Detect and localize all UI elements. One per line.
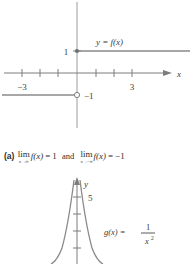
x-tick-label-3: 3 — [130, 82, 135, 92]
limit-2-subscript: x→−∞ — [81, 159, 93, 164]
function-label-f: y = f(x) — [95, 37, 123, 47]
limit-1-equals: = — [45, 151, 50, 161]
curve-branch-left — [51, 180, 74, 264]
limit-2-operator: lim — [81, 150, 93, 159]
answer-part-tag: (a) — [4, 151, 14, 161]
closed-endpoint-dot — [75, 49, 79, 53]
limit-1-operator: lim — [18, 150, 30, 159]
y-tick-label-5: 5 — [88, 193, 93, 203]
limit-2-equals: = — [108, 151, 113, 161]
step-function-graph: 1 −1 −3 3 x y = f(x) — [0, 0, 194, 150]
x-tick-label-minus-3: −3 — [17, 82, 27, 92]
limit-2-expression: f(x) — [94, 151, 107, 161]
limit-2-value: −1 — [115, 151, 125, 161]
fraction-denominator-exponent: 2 — [151, 235, 154, 241]
open-endpoint-circle — [74, 92, 79, 97]
x-axis-arrowhead — [163, 70, 172, 76]
function-label-g-lhs: g(x) = — [104, 227, 126, 237]
answer-conjunction: and — [62, 151, 74, 161]
y-axis-label-bottom: y — [83, 179, 88, 189]
inverse-square-graph: y 5 g(x) = 1 x 2 — [0, 174, 194, 264]
limit-1-value: 1 — [52, 151, 57, 161]
y-tick-label-1: 1 — [64, 47, 69, 57]
bottom-figure-container: y 5 g(x) = 1 x 2 — [0, 174, 194, 264]
limit-2: lim x→−∞ — [81, 150, 93, 164]
fraction-denominator: x — [144, 236, 149, 246]
limit-1: lim x→∞ — [18, 150, 30, 164]
y-label-minus-1: −1 — [84, 91, 94, 101]
y-axis-arrowhead — [74, 177, 80, 185]
x-axis-label: x — [176, 69, 181, 79]
fraction-numerator: 1 — [146, 222, 150, 232]
answer-line: (a) lim x→∞ f(x)=1 and lim x→−∞ f(x)=−1 — [4, 150, 194, 164]
limit-1-subscript: x→∞ — [18, 159, 30, 164]
limit-1-expression: f(x) — [31, 151, 44, 161]
